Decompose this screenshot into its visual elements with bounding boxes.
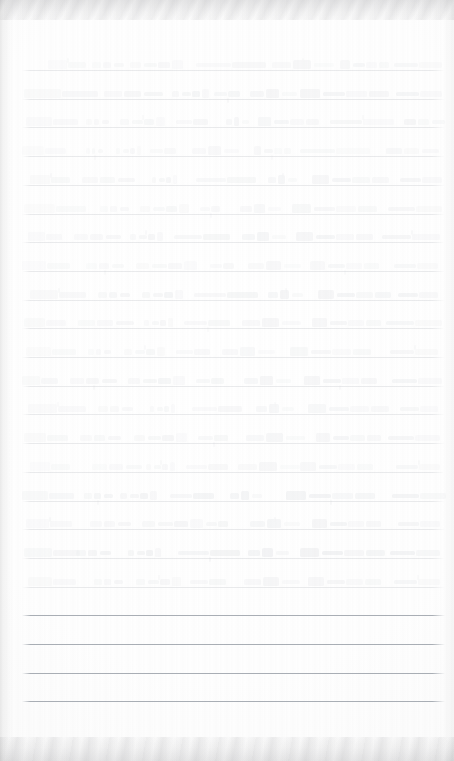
ink-stroke (103, 62, 111, 68)
ink-stroke (168, 263, 182, 269)
ink-stroke (244, 378, 258, 384)
ink-stroke (355, 493, 375, 499)
ink-stroke (109, 464, 123, 470)
ink-stroke (228, 91, 240, 97)
ink-stroke (104, 494, 113, 498)
ink-stroke (24, 433, 46, 442)
ink-stroke (336, 234, 354, 240)
ink-stroke (30, 462, 50, 471)
ink-stroke (348, 320, 364, 326)
ink-stroke (28, 404, 57, 413)
ink-stroke (143, 379, 157, 383)
ink-stroke (282, 321, 301, 325)
ink-fleck (285, 288, 287, 293)
ink-stroke (175, 290, 183, 299)
ink-stroke (88, 349, 94, 355)
handwriting-line (0, 62, 454, 69)
ink-stroke (62, 91, 98, 97)
handwriting-group (0, 0, 454, 761)
ink-stroke (366, 320, 381, 326)
handwriting-line (0, 579, 454, 586)
ink-stroke (92, 62, 101, 68)
scan-edge-left (0, 0, 14, 761)
ink-stroke (50, 521, 72, 527)
handwriting-line (0, 263, 454, 270)
ink-stroke (322, 551, 343, 555)
ink-stroke (148, 436, 161, 440)
ink-stroke (392, 379, 417, 383)
ink-stroke (84, 493, 92, 499)
ink-stroke (419, 292, 438, 298)
ink-stroke (280, 465, 300, 469)
ink-stroke (51, 464, 70, 470)
ink-stroke (211, 378, 224, 384)
ink-stroke (97, 320, 113, 326)
ink-fleck (50, 173, 52, 178)
ink-stroke (332, 178, 351, 182)
ink-stroke (372, 177, 389, 183)
ink-stroke (174, 235, 202, 239)
ink-stroke (88, 550, 97, 556)
ink-stroke (227, 177, 256, 183)
ink-stroke (158, 378, 171, 384)
ink-stroke (80, 435, 92, 441)
ink-stroke (192, 91, 200, 97)
ink-fleck (411, 230, 413, 235)
ink-stroke (211, 206, 220, 212)
ink-stroke (142, 521, 155, 527)
ink-fleck (94, 155, 96, 160)
ink-stroke (336, 148, 370, 154)
ink-stroke (248, 550, 260, 556)
ink-stroke (70, 378, 84, 384)
ink-stroke (184, 321, 207, 325)
ink-stroke (333, 436, 349, 440)
ink-stroke (375, 292, 391, 298)
ink-stroke (159, 178, 165, 182)
ink-stroke (45, 148, 66, 154)
ink-stroke (146, 464, 151, 470)
ink-stroke (157, 347, 165, 356)
ink-stroke (300, 462, 316, 471)
ink-stroke (254, 146, 261, 155)
ink-fleck (142, 115, 144, 120)
ink-stroke (274, 148, 282, 154)
ink-stroke (250, 521, 265, 527)
handwriting-line (0, 521, 454, 528)
ink-stroke (284, 264, 301, 268)
ink-stroke (152, 264, 167, 268)
ink-stroke (309, 494, 331, 498)
ink-fleck (57, 402, 59, 407)
handwriting-line (0, 177, 454, 184)
ink-stroke (300, 89, 320, 98)
ink-stroke (353, 349, 371, 355)
ink-stroke (144, 92, 163, 96)
ink-stroke (196, 379, 210, 383)
ink-stroke (404, 148, 419, 154)
ink-stroke (110, 206, 117, 212)
ink-stroke (82, 177, 98, 183)
ink-stroke (394, 63, 418, 67)
ink-fleck (274, 517, 276, 522)
handwriting-line (0, 91, 454, 98)
ink-stroke (274, 120, 289, 124)
ink-stroke (422, 149, 439, 153)
ink-stroke (396, 465, 418, 469)
ink-stroke (126, 465, 142, 469)
handwriting-line (0, 378, 454, 385)
ink-stroke (363, 119, 394, 125)
ink-stroke (214, 92, 227, 96)
ink-stroke (352, 177, 370, 183)
ink-stroke (419, 464, 440, 470)
ink-stroke (74, 234, 88, 240)
ink-stroke (310, 261, 325, 270)
ink-stroke (124, 349, 132, 355)
ink-stroke (174, 521, 188, 527)
ink-stroke (98, 292, 107, 298)
ink-stroke (136, 263, 149, 269)
ink-stroke (308, 577, 324, 586)
ink-stroke (418, 579, 440, 585)
ink-stroke (386, 148, 402, 154)
ink-stroke (350, 435, 365, 441)
ink-stroke (312, 318, 327, 327)
ink-stroke (420, 406, 438, 412)
